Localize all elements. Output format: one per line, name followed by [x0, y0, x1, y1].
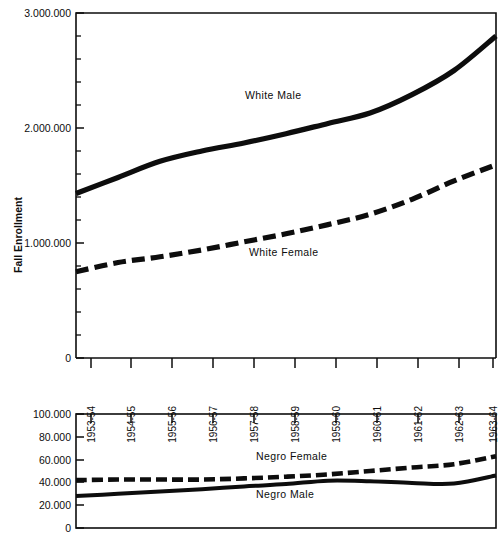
enrollment-chart-figure: 3.000.000 2.000.000 1.000.000 0 Fall Enr… [0, 0, 504, 538]
upper-ytick-label-2000000: 2.000.000 [24, 122, 71, 134]
xtick-label-1956-57: 1956-57 [208, 406, 219, 443]
annotation-white-female: White Female [249, 246, 319, 258]
lower-ytick-label-40000: 40.000 [39, 476, 71, 488]
upper-ytick-label-0: 0 [65, 352, 71, 364]
xtick-label-1957-58: 1957-58 [249, 406, 260, 443]
xtick-label-1958-59: 1958-59 [290, 406, 301, 443]
xtick-label-1959-60: 1959-60 [331, 406, 342, 443]
upper-ytick-label-1000000: 1.000.000 [24, 237, 71, 249]
xtick-label-1962-63: 1962-63 [454, 406, 465, 443]
annotation-negro-male: Negro Male [256, 488, 314, 500]
lower-ytick-label-60000: 60.000 [39, 454, 71, 466]
lower-ytick-label-80000: 80.000 [39, 431, 71, 443]
xtick-label-1955-56: 1955-56 [167, 406, 178, 443]
xtick-label-1960-61: 1960-61 [372, 406, 383, 443]
xtick-label-1961-62: 1961-62 [413, 406, 424, 443]
xtick-label-1953-54: 1953-54 [86, 406, 97, 443]
xtick-label-1954-55: 1954-55 [126, 406, 137, 443]
lower-ytick-label-0: 0 [65, 522, 71, 534]
annotation-negro-female: Negro Female [256, 450, 327, 462]
y-axis-title: Fall Enrollment [12, 197, 24, 273]
xtick-label-1963-64: 1963-64 [488, 406, 499, 443]
lower-ytick-label-100000: 100.000 [33, 408, 71, 420]
lower-ytick-label-20000: 20.000 [39, 499, 71, 511]
upper-ytick-label-3000000: 3.000.000 [24, 7, 71, 19]
annotation-white-male: White Male [245, 89, 302, 101]
